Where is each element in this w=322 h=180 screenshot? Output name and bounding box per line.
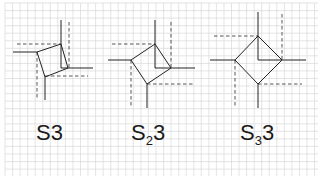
figure-label-s3-3: S33 — [240, 122, 274, 147]
rotated-square — [37, 44, 68, 77]
figure-label-s2-3: S23 — [131, 122, 165, 147]
diagram-canvas: S3 S23 S33 — [0, 0, 322, 180]
rotated-square — [131, 44, 171, 84]
figure-label-s3: S3 — [36, 122, 63, 147]
grid-diagram — [0, 0, 322, 180]
